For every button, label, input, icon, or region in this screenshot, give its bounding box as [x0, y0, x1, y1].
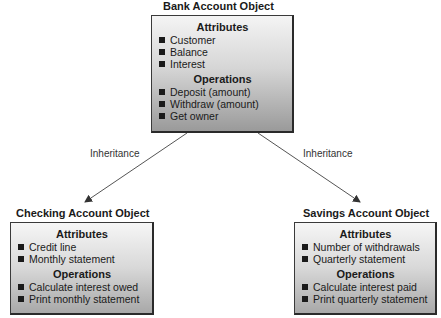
- inheritance-label-left: Inheritance: [90, 148, 139, 159]
- bullet-icon: [302, 256, 308, 262]
- bullet-icon: [159, 113, 165, 119]
- attributes-heading: Attributes: [302, 228, 429, 241]
- bullet-icon: [159, 61, 165, 67]
- bullet-icon: [159, 101, 165, 107]
- attribute-item: Interest: [159, 58, 286, 70]
- bullet-icon: [302, 284, 308, 290]
- attribute-item: Balance: [159, 46, 286, 58]
- attributes-heading: Attributes: [18, 228, 146, 241]
- operation-item: Calculate interest paid: [302, 281, 429, 293]
- checking-account-box: Attributes Credit line Monthly statement…: [10, 222, 154, 315]
- bullet-icon: [18, 284, 24, 290]
- operation-item: Withdraw (amount): [159, 98, 286, 110]
- bullet-icon: [18, 296, 24, 302]
- savings-account-title: Savings Account Object: [303, 207, 429, 219]
- operations-heading: Operations: [302, 268, 429, 281]
- attribute-item: Customer: [159, 34, 286, 46]
- arrow-to-savings: [258, 133, 360, 202]
- bullet-icon: [18, 244, 24, 250]
- bullet-icon: [159, 89, 165, 95]
- attribute-item: Credit line: [18, 241, 146, 253]
- attribute-item: Monthly statement: [18, 253, 146, 265]
- operation-item: Deposit (amount): [159, 86, 286, 98]
- bullet-icon: [159, 37, 165, 43]
- attribute-item: Quarterly statement: [302, 253, 429, 265]
- operation-item: Print monthly statement: [18, 293, 146, 305]
- operation-item: Print quarterly statement: [302, 293, 429, 305]
- bank-account-box: Attributes Customer Balance Interest Ope…: [151, 15, 294, 133]
- bank-account-title: Bank Account Object: [163, 0, 274, 12]
- attributes-heading: Attributes: [159, 21, 286, 34]
- bullet-icon: [302, 244, 308, 250]
- attribute-item: Number of withdrawals: [302, 241, 429, 253]
- operations-heading: Operations: [159, 73, 286, 86]
- bullet-icon: [159, 49, 165, 55]
- checking-account-title: Checking Account Object: [16, 207, 149, 219]
- bullet-icon: [18, 256, 24, 262]
- operation-item: Get owner: [159, 110, 286, 122]
- inheritance-label-right: Inheritance: [303, 148, 352, 159]
- arrow-to-checking: [85, 133, 187, 202]
- savings-account-box: Attributes Number of withdrawals Quarter…: [294, 222, 437, 315]
- bullet-icon: [302, 296, 308, 302]
- operation-item: Calculate interest owed: [18, 281, 146, 293]
- operations-heading: Operations: [18, 268, 146, 281]
